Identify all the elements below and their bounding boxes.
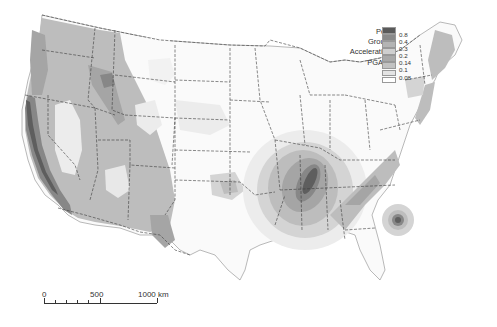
- scale-tick: [55, 300, 56, 303]
- legend-swatch: [382, 77, 396, 84]
- legend-swatch: [382, 55, 396, 62]
- legend-value: 0.14: [399, 59, 411, 66]
- legend-swatch: [382, 41, 396, 48]
- legend-swatch: [382, 27, 396, 34]
- legend-swatch: [382, 48, 396, 55]
- scale-label-1000: 1000 km: [138, 290, 169, 299]
- scale-tick: [100, 298, 101, 303]
- legend-value: 0.3: [399, 45, 411, 52]
- scale-tick: [66, 300, 67, 303]
- scale-line: [44, 303, 157, 304]
- legend-swatch: [382, 34, 396, 41]
- legend-swatch: [382, 62, 396, 69]
- scale-tick: [44, 298, 45, 303]
- legend-value: 0.2: [399, 52, 411, 59]
- legend: Peak Ground Acceleration, PGA [g] 0.8 0.…: [330, 25, 450, 85]
- scale-label-500: 500: [90, 290, 103, 299]
- scale-tick: [88, 300, 89, 303]
- legend-value: 0.1: [399, 66, 411, 73]
- scale-tick: [77, 300, 78, 303]
- scale-bar: 0 500 1000 km: [40, 290, 170, 314]
- scale-tick: [157, 298, 158, 303]
- legend-value: 0.4: [399, 38, 411, 45]
- legend-value: 0.08: [399, 74, 411, 81]
- charleston-core: [395, 217, 401, 223]
- legend-swatches: [382, 27, 396, 84]
- legend-value: 0.8: [399, 31, 411, 38]
- legend-swatch: [382, 70, 396, 77]
- legend-values: 0.8 0.4 0.3 0.2 0.14 0.1 0.08: [399, 31, 411, 81]
